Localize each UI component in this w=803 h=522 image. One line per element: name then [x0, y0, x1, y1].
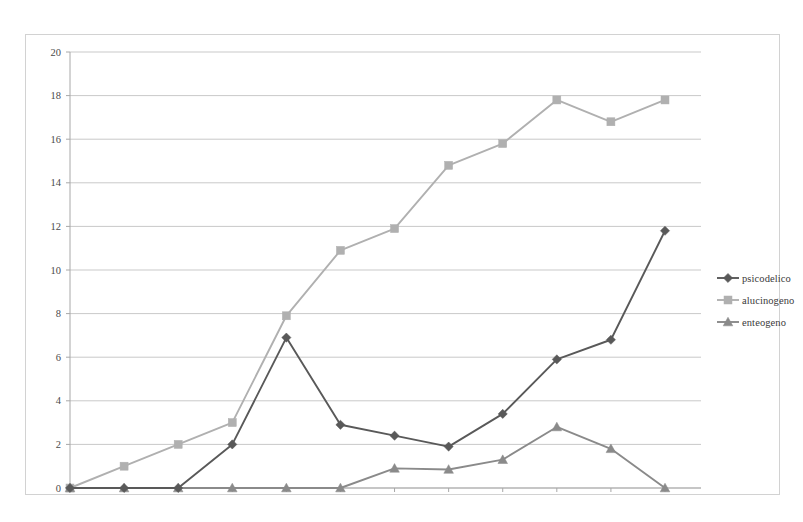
data-point-marker-square: [607, 118, 615, 126]
data-point-marker-triangle: [552, 422, 562, 431]
line-chart-plot: 2018161412108642019501955196019651970197…: [26, 35, 779, 494]
chart-legend: psicodelicoalucinogenoenteogeno: [716, 267, 803, 333]
data-point-marker-square: [174, 440, 182, 448]
data-point-marker-diamond: [390, 431, 399, 440]
series-enteogeno: [65, 422, 670, 492]
y-tick-label: 0: [56, 483, 61, 494]
data-point-marker-square: [445, 161, 453, 169]
y-tick-label: 12: [51, 221, 62, 232]
legend-label: enteogeno: [742, 317, 786, 328]
legend-item-psicodelico[interactable]: psicodelico: [716, 267, 803, 289]
data-point-marker-square: [391, 225, 399, 233]
y-tick-label: 4: [56, 395, 62, 406]
data-point-marker-diamond: [336, 420, 345, 429]
data-point-marker-square: [553, 96, 561, 104]
y-tick-label: 16: [51, 134, 62, 145]
chart-frame: 2018161412108642019501955196019651970197…: [25, 34, 780, 495]
data-point-marker-diamond: [282, 333, 291, 342]
series-line-psicodelico: [70, 231, 665, 488]
data-point-marker-diamond: [444, 442, 453, 451]
data-point-marker-diamond: [660, 226, 669, 235]
data-point-marker-square: [282, 312, 290, 320]
legend-marker-diamond-icon: [716, 271, 740, 285]
y-tick-label: 8: [56, 308, 61, 319]
legend-swatch: [716, 293, 740, 307]
legend-swatch: [716, 271, 740, 285]
data-point-marker-square: [661, 96, 669, 104]
data-point-marker-triangle: [498, 455, 508, 464]
data-point-marker-square: [724, 296, 732, 304]
y-tick-label: 18: [51, 90, 62, 101]
y-tick-label: 2: [56, 439, 61, 450]
axes: [66, 52, 701, 492]
series-alucinogeno: [66, 96, 669, 492]
legend-item-alucinogeno[interactable]: alucinogeno: [716, 289, 803, 311]
legend-label: alucinogeno: [742, 295, 794, 306]
y-tick-label: 20: [51, 47, 62, 58]
data-point-marker-square: [499, 140, 507, 148]
legend-marker-square-icon: [716, 293, 740, 307]
legend-swatch: [716, 315, 740, 329]
data-point-marker-square: [336, 246, 344, 254]
y-tick-label: 14: [51, 177, 62, 188]
series-line-enteogeno: [70, 427, 665, 488]
legend-item-enteogeno[interactable]: enteogeno: [716, 311, 803, 333]
chart-container: 2018161412108642019501955196019651970197…: [0, 0, 803, 522]
data-point-marker-diamond: [606, 335, 615, 344]
y-tick-label: 6: [56, 352, 61, 363]
legend-label: psicodelico: [742, 273, 791, 284]
data-point-marker-diamond: [723, 273, 732, 282]
y-tick-label: 10: [51, 265, 62, 276]
gridlines: [70, 52, 701, 488]
data-point-marker-square: [120, 462, 128, 470]
legend-marker-triangle-icon: [716, 315, 740, 329]
data-point-marker-square: [228, 419, 236, 427]
